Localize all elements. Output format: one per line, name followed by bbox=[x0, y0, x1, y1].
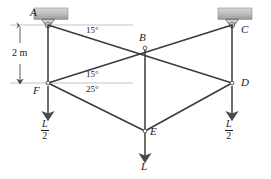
support-block-A bbox=[34, 8, 68, 19]
angle-label-upper-at-F: 15° bbox=[86, 70, 99, 79]
load-label-F-numerator: L bbox=[41, 119, 49, 131]
truss-diagram-svg bbox=[0, 0, 271, 179]
node-label-B: B bbox=[139, 32, 146, 43]
load-label-D: L 2 bbox=[225, 119, 233, 141]
joint-B bbox=[143, 46, 147, 50]
truss-diagram-figure: A B C D E F 15° 15° 25° 2 m L 2 L L 2 bbox=[0, 0, 271, 179]
node-label-E: E bbox=[150, 126, 157, 137]
angle-label-lower-at-F: 25° bbox=[86, 85, 99, 94]
load-label-E: L bbox=[141, 161, 147, 172]
dimension-label-2m: 2 m bbox=[12, 48, 27, 58]
node-label-F: F bbox=[33, 85, 40, 96]
load-label-D-denominator: 2 bbox=[225, 131, 233, 142]
angle-label-at-A: 15° bbox=[86, 26, 99, 35]
member-ED bbox=[145, 83, 232, 131]
support-block-C bbox=[218, 8, 252, 19]
node-label-D: D bbox=[241, 77, 249, 88]
node-label-A: A bbox=[30, 7, 37, 18]
load-label-D-numerator: L bbox=[225, 119, 233, 131]
joint-E bbox=[143, 129, 147, 133]
node-label-C: C bbox=[241, 24, 248, 35]
joint-D bbox=[230, 81, 234, 85]
load-label-F-denominator: 2 bbox=[41, 131, 49, 142]
load-label-F: L 2 bbox=[41, 119, 49, 141]
